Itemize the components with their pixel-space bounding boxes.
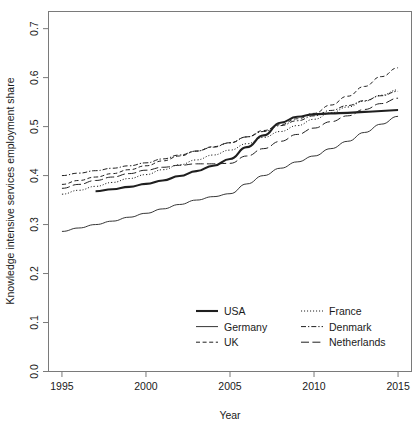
chart-container: 0.00.10.20.30.40.50.60.7 199520002005201… <box>0 0 420 434</box>
y-tick-label: 0.1 <box>28 315 40 330</box>
y-tick-label: 0.4 <box>28 168 40 183</box>
legend-label-france: France <box>329 305 362 317</box>
x-tick-label: 2015 <box>386 380 410 392</box>
x-tick-label: 1995 <box>50 380 74 392</box>
y-tick-label: 0.2 <box>28 266 40 281</box>
legend-label-denmark: Denmark <box>329 321 372 333</box>
x-tick-label: 2000 <box>134 380 158 392</box>
series-line-uk <box>62 68 398 185</box>
line-chart: 0.00.10.20.30.40.50.60.7 199520002005201… <box>0 0 420 434</box>
legend-label-usa: USA <box>224 305 246 317</box>
series-line-usa <box>96 110 399 191</box>
x-tick-label: 2010 <box>302 380 326 392</box>
y-tick-label: 0.5 <box>28 119 40 134</box>
y-tick-label: 0.0 <box>28 364 40 379</box>
series-line-france <box>62 90 398 194</box>
y-tick-label: 0.6 <box>28 70 40 85</box>
y-axis-ticks <box>43 29 49 372</box>
series-line-germany <box>62 116 398 231</box>
x-tick-label: 2005 <box>218 380 242 392</box>
y-axis-title: Knowledge intensive services employment … <box>4 77 16 304</box>
y-axis-tick-labels: 0.00.10.20.30.40.50.60.7 <box>28 21 40 379</box>
legend-label-netherlands: Netherlands <box>329 336 386 348</box>
x-axis-tick-labels: 19952000200520102015 <box>50 380 410 392</box>
legend-label-germany: Germany <box>224 321 268 333</box>
y-tick-label: 0.3 <box>28 217 40 232</box>
chart-legend: USAGermanyUKFranceDenmarkNetherlands <box>196 305 386 348</box>
x-axis-title: Year <box>219 409 241 421</box>
x-axis-ticks <box>62 372 398 378</box>
y-tick-label: 0.7 <box>28 21 40 36</box>
data-series-group <box>62 68 398 232</box>
legend-label-uk: UK <box>224 336 239 348</box>
